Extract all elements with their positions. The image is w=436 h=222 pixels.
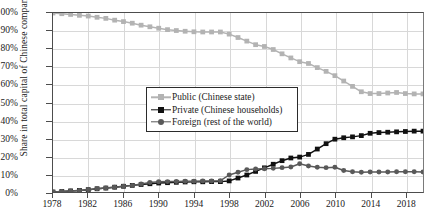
y-axis-tick: 70% xyxy=(0,61,18,71)
series-marker xyxy=(253,167,258,172)
series-marker xyxy=(244,39,249,44)
series-marker xyxy=(200,30,205,35)
y-axis-tick: 60% xyxy=(0,79,18,89)
y-axis-tick: 20% xyxy=(0,152,18,162)
series-marker xyxy=(174,28,179,33)
series-marker xyxy=(350,84,355,89)
series-marker xyxy=(288,164,293,169)
series-marker xyxy=(359,133,364,138)
series-marker xyxy=(209,30,214,35)
chart-container: Share in total capital of Chinese compan… xyxy=(0,0,436,222)
series-marker xyxy=(324,69,329,74)
x-axis-tick-mark xyxy=(52,193,53,198)
series-marker xyxy=(209,178,214,183)
series-marker xyxy=(306,152,311,157)
series-marker xyxy=(165,27,170,32)
series-marker xyxy=(350,169,355,174)
legend-item-label: Private (Chinese households) xyxy=(172,105,282,115)
series-marker xyxy=(288,156,293,161)
x-axis-tick-mark xyxy=(87,193,88,198)
series-marker xyxy=(297,59,302,64)
series-marker xyxy=(341,79,346,84)
series-marker xyxy=(244,167,249,172)
series-marker xyxy=(227,179,232,184)
series-marker xyxy=(341,168,346,173)
series-marker xyxy=(148,24,153,29)
x-axis-tick-mark xyxy=(335,193,336,198)
series-marker xyxy=(139,181,144,186)
legend-item[interactable]: Private (Chinese households) xyxy=(150,103,293,115)
x-axis-tick-mark xyxy=(371,193,372,198)
series-marker xyxy=(218,178,223,183)
series-marker xyxy=(95,186,100,191)
series-marker xyxy=(332,165,337,170)
series-marker xyxy=(86,187,91,192)
series-line xyxy=(53,13,423,94)
y-axis-tick: 0% xyxy=(0,188,18,198)
series-marker xyxy=(271,47,276,52)
series-marker xyxy=(403,169,408,174)
series-marker xyxy=(306,164,311,169)
series-marker xyxy=(86,14,91,19)
series-marker xyxy=(112,18,117,23)
series-marker xyxy=(412,129,417,134)
series-marker xyxy=(191,179,196,184)
series-marker xyxy=(280,158,285,163)
series-marker xyxy=(306,61,311,66)
series-marker xyxy=(315,65,320,70)
series-marker xyxy=(333,73,338,78)
series-marker xyxy=(236,170,241,175)
series-marker xyxy=(218,30,223,35)
series-marker xyxy=(394,129,399,134)
series-marker xyxy=(236,35,241,40)
series-marker xyxy=(130,21,135,26)
series-marker xyxy=(280,51,285,56)
series-marker xyxy=(174,179,179,184)
y-axis-tick: 40% xyxy=(0,116,18,126)
series-marker xyxy=(315,147,320,152)
series-marker xyxy=(68,13,73,17)
series-marker xyxy=(236,176,241,181)
x-axis-tick-mark xyxy=(406,193,407,198)
legend-marker-icon xyxy=(150,104,172,116)
y-axis-tick: 100% xyxy=(0,7,18,17)
series-marker xyxy=(244,173,249,178)
x-axis-tick-mark xyxy=(158,193,159,198)
y-axis-label: Share in total capital of Chinese compan… xyxy=(19,0,29,172)
legend-item[interactable]: Foreign (rest of the world) xyxy=(150,116,293,128)
series-marker xyxy=(288,56,293,61)
series-marker xyxy=(156,26,161,31)
legend-marker-icon xyxy=(150,91,172,103)
series-marker xyxy=(200,179,205,184)
series-marker xyxy=(112,185,117,190)
x-axis-tick-mark xyxy=(194,193,195,198)
series-marker xyxy=(297,155,302,160)
series-marker xyxy=(333,137,338,142)
series-marker xyxy=(324,141,329,146)
series-marker xyxy=(403,91,408,96)
y-axis-tick: 50% xyxy=(0,98,18,108)
series-marker xyxy=(412,92,417,97)
series-marker xyxy=(368,91,373,96)
y-axis-tick: 80% xyxy=(0,43,18,53)
x-axis-tick-mark xyxy=(265,193,266,198)
series-marker xyxy=(121,19,126,24)
series-marker xyxy=(350,134,355,139)
x-axis-tick-mark xyxy=(300,193,301,198)
x-axis-tick-mark xyxy=(123,193,124,198)
series-marker xyxy=(421,129,423,134)
series-marker xyxy=(227,32,232,37)
series-marker xyxy=(341,135,346,140)
series-marker xyxy=(394,169,399,174)
series-marker xyxy=(403,129,408,134)
x-axis-tick: 2018 xyxy=(378,199,434,209)
legend-item[interactable]: Public (Chinese state) xyxy=(150,91,293,103)
series-marker xyxy=(95,15,100,20)
series-marker xyxy=(77,13,82,18)
series-marker xyxy=(385,169,390,174)
series-marker xyxy=(421,92,423,97)
series-marker xyxy=(412,169,417,174)
series-marker xyxy=(368,131,373,136)
y-axis-tick: 10% xyxy=(0,170,18,180)
series-marker xyxy=(103,16,108,21)
